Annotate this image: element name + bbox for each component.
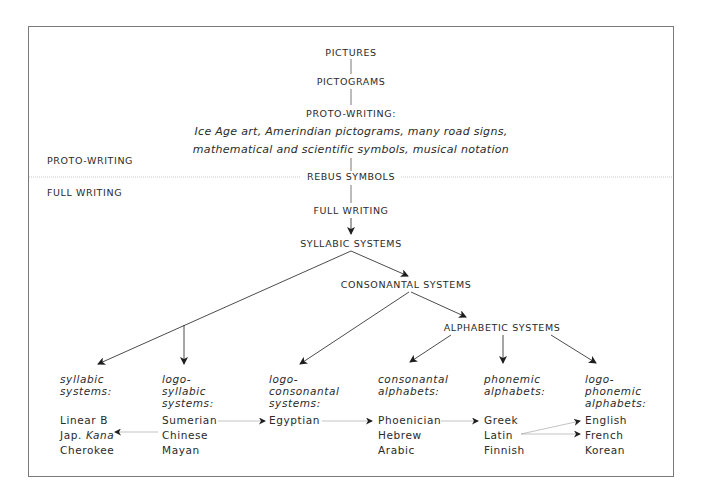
list-item-italic: Kana xyxy=(86,429,114,441)
list-syllabic: Linear B Jap. Kana Cherokee xyxy=(60,413,150,458)
list-item: Phoenician xyxy=(378,414,441,426)
node-full-writing: FULL WRITING xyxy=(313,205,388,216)
node-consonantal-systems: CONSONANTAL SYSTEMS xyxy=(341,279,472,290)
list-item: Korean xyxy=(585,444,625,456)
list-item: French xyxy=(585,429,624,441)
column-header-logo-syllabic: logo-syllabicsystems: xyxy=(162,373,252,409)
list-logo-consonantal: Egyptian xyxy=(269,413,359,428)
column-header-syllabic: syllabicsystems: xyxy=(60,373,150,397)
column-header-logo-consonantal: logo-consonantalsystems: xyxy=(269,373,359,409)
proto-examples-line2: mathematical and scientific symbols, mus… xyxy=(193,143,509,156)
list-item: Hebrew xyxy=(378,429,422,441)
side-label-full-writing: FULL WRITING xyxy=(47,187,122,198)
column-header-consonantal-alphabets: consonantalalphabets: xyxy=(378,373,468,397)
list-item: Greek xyxy=(484,414,518,426)
list-item: Mayan xyxy=(162,444,200,456)
list-logo-phonemic-alphabets: English French Korean xyxy=(585,413,675,458)
list-item: Finnish xyxy=(484,444,525,456)
node-syllabic-systems: SYLLABIC SYSTEMS xyxy=(300,238,402,249)
list-item: English xyxy=(585,414,627,426)
node-rebus-symbols: REBUS SYMBOLS xyxy=(301,171,401,182)
list-item: Chinese xyxy=(162,429,208,441)
list-phonemic-alphabets: Greek Latin Finnish xyxy=(484,413,574,458)
node-alphabetic-systems: ALPHABETIC SYSTEMS xyxy=(444,322,561,333)
list-item: Egyptian xyxy=(269,414,320,426)
node-proto-writing: PROTO-WRITING: xyxy=(306,108,396,119)
column-header-phonemic-alphabets: phonemicalphabets: xyxy=(484,373,574,397)
column-header-logo-phonemic-alphabets: logo-phonemicalphabets: xyxy=(585,373,675,409)
list-item: Latin xyxy=(484,429,513,441)
list-consonantal-alphabets: Phoenician Hebrew Arabic xyxy=(378,413,468,458)
node-pictograms: PICTOGRAMS xyxy=(317,76,386,87)
node-pictures: PICTURES xyxy=(325,47,376,58)
list-item: Cherokee xyxy=(60,444,114,456)
list-item: Sumerian xyxy=(162,414,217,426)
proto-examples-line1: Ice Age art, Amerindian pictograms, many… xyxy=(195,125,508,138)
list-logo-syllabic: Sumerian Chinese Mayan xyxy=(162,413,252,458)
list-item: Jap. xyxy=(60,429,86,441)
list-item: Linear B xyxy=(60,414,108,426)
side-label-proto-writing: PROTO-WRITING xyxy=(47,155,133,166)
list-item: Arabic xyxy=(378,444,415,456)
